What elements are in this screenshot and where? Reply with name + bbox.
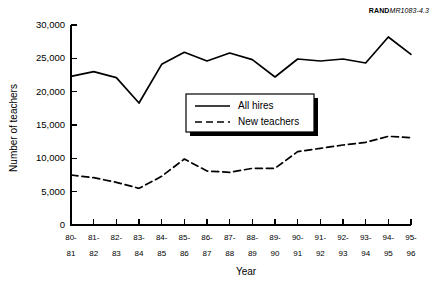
x-tick-label-top: 90- bbox=[292, 233, 304, 242]
chart-legend: All hiresNew teachers bbox=[186, 94, 318, 136]
x-tick-label-top: 84- bbox=[156, 233, 168, 242]
rand-source-identifier: RANDMR1083-4.3 bbox=[369, 7, 429, 14]
x-tick-label-top: 88- bbox=[247, 233, 259, 242]
x-tick-label-bottom: 88 bbox=[225, 249, 234, 258]
x-tick-label-bottom: 83 bbox=[112, 249, 121, 258]
x-axis-title: Year bbox=[236, 266, 257, 277]
legend-label-all-hires: All hires bbox=[238, 100, 274, 111]
x-axis-ticks bbox=[71, 219, 411, 225]
y-tick-label: 30,000 bbox=[36, 19, 65, 30]
x-tick-label-bottom: 93 bbox=[339, 249, 348, 258]
y-axis-ticks bbox=[71, 25, 77, 225]
x-tick-label-bottom: 81 bbox=[67, 249, 76, 258]
rand-document-code: MR1083-4.3 bbox=[389, 7, 429, 14]
series-line-new-teachers bbox=[71, 136, 411, 188]
x-tick-label-top: 89- bbox=[269, 233, 281, 242]
y-tick-label: 25,000 bbox=[36, 52, 65, 63]
chart-figure: RANDMR1083-4.3 05,00010,00015,00020,0002… bbox=[0, 0, 435, 290]
x-tick-label-top: 94- bbox=[383, 233, 395, 242]
y-tick-label: 20,000 bbox=[36, 86, 65, 97]
x-tick-label-top: 85- bbox=[179, 233, 191, 242]
x-tick-label-bottom: 89 bbox=[248, 249, 257, 258]
x-tick-label-top: 92- bbox=[337, 233, 349, 242]
y-axis-title: Number of teachers bbox=[8, 84, 19, 172]
y-tick-label: 15,000 bbox=[36, 119, 65, 130]
y-tick-label: 0 bbox=[60, 219, 65, 230]
x-tick-label-bottom: 85 bbox=[157, 249, 166, 258]
x-tick-label-top: 82- bbox=[111, 233, 123, 242]
legend-label-new-teachers: New teachers bbox=[238, 116, 299, 127]
rand-brand-label: RAND bbox=[369, 7, 390, 14]
x-tick-label-bottom: 94 bbox=[361, 249, 370, 258]
x-tick-label-bottom: 87 bbox=[203, 249, 212, 258]
x-tick-label-top: 81- bbox=[88, 233, 100, 242]
x-tick-label-bottom: 95 bbox=[384, 249, 393, 258]
x-tick-label-top: 87- bbox=[224, 233, 236, 242]
x-tick-label-bottom: 90 bbox=[271, 249, 280, 258]
x-tick-label-bottom: 82 bbox=[89, 249, 98, 258]
x-tick-label-top: 95- bbox=[405, 233, 417, 242]
line-chart-canvas: 05,00010,00015,00020,00025,00030,000 80-… bbox=[0, 0, 435, 290]
y-tick-label: 10,000 bbox=[36, 152, 65, 163]
y-tick-label: 5,000 bbox=[41, 186, 65, 197]
series-line-all-hires bbox=[71, 37, 411, 103]
y-axis-tick-labels: 05,00010,00015,00020,00025,00030,000 bbox=[36, 19, 65, 230]
x-tick-label-top: 80- bbox=[65, 233, 77, 242]
x-tick-label-top: 91- bbox=[315, 233, 327, 242]
x-tick-label-top: 93- bbox=[360, 233, 372, 242]
x-tick-label-top: 83- bbox=[133, 233, 145, 242]
x-tick-label-bottom: 96 bbox=[407, 249, 416, 258]
x-tick-label-top: 86- bbox=[201, 233, 213, 242]
x-tick-label-bottom: 86 bbox=[180, 249, 189, 258]
x-axis-tick-labels: 80-8181-8282-8383-8484-8585-8686-8787-88… bbox=[65, 233, 417, 258]
x-tick-label-bottom: 92 bbox=[316, 249, 325, 258]
x-tick-label-bottom: 84 bbox=[135, 249, 144, 258]
x-tick-label-bottom: 91 bbox=[293, 249, 302, 258]
